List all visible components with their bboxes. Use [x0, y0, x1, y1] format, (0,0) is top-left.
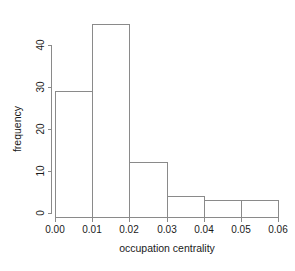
x-tick-label-0.02: 0.02 — [119, 224, 139, 235]
histogram-bar — [167, 197, 204, 218]
x-tick-label-0.05: 0.05 — [231, 224, 251, 235]
x-tick-label-0.04: 0.04 — [194, 224, 214, 235]
y-tick-label-0: 0 — [35, 210, 46, 216]
histogram-bar — [56, 92, 93, 218]
histogram-figure: 0 10 20 30 40 frequency 0.00 0.01 0.02 0… — [0, 0, 295, 271]
x-axis-title: occupation centrality — [119, 242, 215, 254]
y-tick-label-40: 40 — [35, 39, 46, 51]
y-tick-marks — [48, 46, 52, 214]
x-tick-label-0.03: 0.03 — [157, 224, 177, 235]
y-tick-label-20: 20 — [35, 123, 46, 135]
histogram-bar — [204, 201, 241, 218]
x-tick-labels: 0.00 0.01 0.02 0.03 0.04 0.05 0.06 — [45, 224, 288, 235]
y-axis-title: frequency — [11, 105, 23, 152]
histogram-bars — [56, 24, 279, 217]
x-tick-label-0.01: 0.01 — [82, 224, 102, 235]
y-tick-label-10: 10 — [35, 165, 46, 177]
x-tick-label-0.00: 0.00 — [45, 224, 65, 235]
y-tick-labels: 0 10 20 30 40 — [35, 39, 46, 216]
histogram-bar — [241, 201, 278, 218]
y-tick-label-30: 30 — [35, 81, 46, 93]
histogram-plot: 0 10 20 30 40 frequency 0.00 0.01 0.02 0… — [0, 0, 295, 271]
histogram-bar — [93, 24, 130, 217]
x-tick-marks — [56, 218, 279, 222]
histogram-bar — [130, 163, 167, 218]
x-tick-label-0.06: 0.06 — [268, 224, 288, 235]
